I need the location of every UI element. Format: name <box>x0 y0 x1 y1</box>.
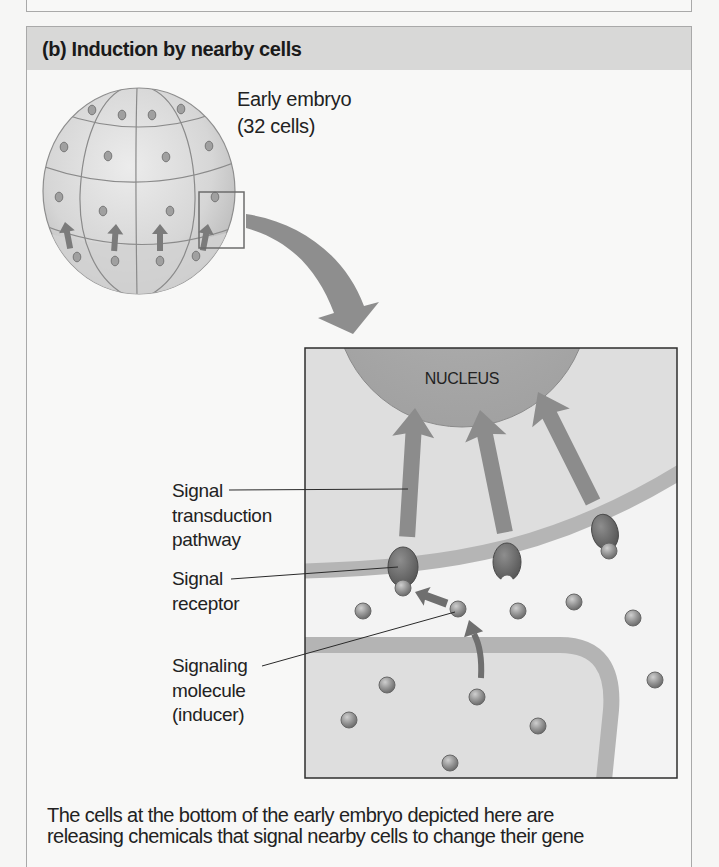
embryo-cell-count: (32 cells) <box>237 113 351 140</box>
molecule-icon <box>530 718 546 734</box>
nucleus <box>335 173 589 427</box>
molecule-icon <box>450 601 466 617</box>
molecule-icon <box>469 689 485 705</box>
nucleus-label: NUCLEUS <box>425 370 499 387</box>
receptor-label: Signal receptor <box>172 567 239 616</box>
molecule-icon <box>510 603 526 619</box>
label-line: Signaling <box>172 654 247 679</box>
label-line: transduction <box>172 504 272 529</box>
molecule-icon <box>625 610 641 626</box>
cell-detail-view: NUCLEUS <box>300 173 690 790</box>
label-line: (inducer) <box>172 703 247 728</box>
label-line: receptor <box>172 592 239 617</box>
curved-arrow-icon <box>246 214 379 334</box>
transduction-label: Signal transduction pathway <box>172 479 272 553</box>
label-line: Signal <box>172 479 272 504</box>
signaling-molecule-label: Signaling molecule (inducer) <box>172 654 247 728</box>
label-line: molecule <box>172 679 247 704</box>
label-line: Signal <box>172 567 239 592</box>
caption-line: releasing chemicals that signal nearby c… <box>47 826 584 847</box>
molecule-icon <box>647 672 663 688</box>
embryo-icon <box>30 88 250 300</box>
embryo-label-line: Early embryo <box>237 86 351 113</box>
embryo-label: Early embryo (32 cells) <box>237 86 351 140</box>
molecule-icon <box>355 603 371 619</box>
label-line: pathway <box>172 528 272 553</box>
molecule-icon <box>341 712 357 728</box>
molecule-icon <box>566 594 582 610</box>
molecule-icon <box>379 677 395 693</box>
molecule-icon <box>442 755 458 771</box>
figure-caption: The cells at the bottom of the early emb… <box>47 805 584 847</box>
caption-line: The cells at the bottom of the early emb… <box>47 805 584 826</box>
